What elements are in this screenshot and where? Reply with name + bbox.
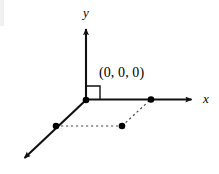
point-plane-corner <box>119 123 126 130</box>
y-axis-label: y <box>83 6 89 19</box>
point-on-x-axis <box>148 96 155 103</box>
coordinate-axes-figure: y x (0, 0, 0) <box>0 0 219 174</box>
point-on-z-axis <box>53 123 60 130</box>
point-origin <box>83 97 90 104</box>
dashed-segment-corner-to-x <box>122 100 150 126</box>
x-axis-label: x <box>203 92 209 105</box>
axes-drawing-canvas <box>0 0 219 174</box>
origin-coordinate-label: (0, 0, 0) <box>99 66 144 80</box>
